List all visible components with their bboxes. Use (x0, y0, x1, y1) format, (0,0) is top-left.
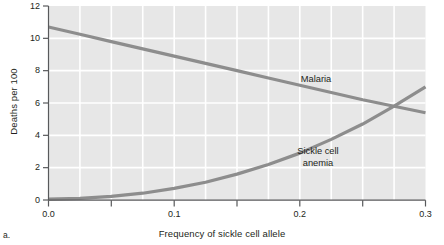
x-tick-label-1: 0.1 (154, 209, 194, 219)
x-axis-title: Frequency of sickle cell allele (0, 228, 444, 239)
y-tick-label-2: 2 (14, 162, 40, 172)
x-tick-label-0: 0.0 (29, 209, 69, 219)
series-label-malaria: Malaria (281, 74, 351, 86)
figure-panel: 0 2 4 6 8 10 12 0.0 0.1 0.2 0.3 Frequenc… (0, 0, 444, 245)
y-tick-label-0: 0 (14, 195, 40, 205)
series-label-sickle-line-2: anemia (280, 158, 356, 170)
y-tick-label-12: 12 (14, 1, 40, 11)
x-tick-label-3: 0.3 (406, 209, 444, 219)
series-label-sickle-cell-anemia: Sickle cell anemia (280, 146, 356, 169)
y-axis-ticks (43, 6, 49, 200)
panel-letter: a. (3, 230, 10, 240)
y-tick-label-10: 10 (14, 33, 40, 43)
y-axis-title: Deaths per 100 (8, 47, 19, 157)
x-axis-ticks (49, 200, 426, 206)
x-tick-label-2: 0.2 (280, 209, 320, 219)
series-label-sickle-line-1: Sickle cell (280, 146, 356, 158)
